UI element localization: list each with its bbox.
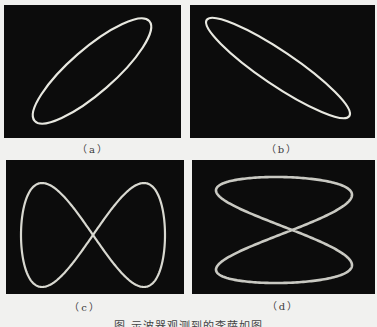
panel-c-label: （c） — [55, 299, 115, 314]
panel-d-label: （d） — [253, 298, 313, 313]
panel-b-screen — [190, 5, 375, 138]
figure-eight-trace-d — [192, 160, 375, 294]
panel-c-screen — [6, 160, 184, 294]
panel-a-screen — [4, 5, 181, 138]
panel-a-label: （a） — [63, 141, 123, 156]
ellipse-trace-a — [4, 5, 181, 138]
figure-eight-trace-c — [6, 160, 184, 294]
panel-b-label: （b） — [252, 141, 312, 156]
ellipse-trace-b — [190, 5, 375, 138]
panel-d-screen — [192, 160, 375, 294]
figure-caption: 图 示波器观测到的李萨如图 — [0, 318, 377, 327]
